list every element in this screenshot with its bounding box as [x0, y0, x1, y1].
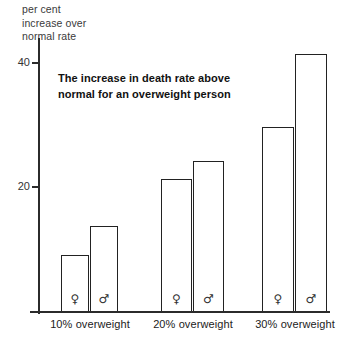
x-category-label-3: 30% overweight [240, 318, 338, 330]
mars-icon: ♂ [296, 293, 326, 305]
x-category-label-2: 20% overweight [138, 318, 248, 330]
x-category-label-1: 10% overweight [35, 318, 145, 330]
y-axis-caption-line-3: normal rate [22, 30, 86, 44]
y-axis-caption-line-1: per cent [22, 3, 86, 17]
bar-male-1: ♂ [90, 226, 118, 311]
bar-male-2: ♂ [193, 161, 224, 311]
y-tick-label: 40 [0, 56, 30, 68]
x-axis-line [30, 311, 330, 313]
y-axis-caption: per cent increase over normal rate [22, 3, 86, 44]
bar-male-3: ♂ [295, 54, 327, 311]
venus-icon: ♀ [62, 293, 88, 305]
bar-female-1: ♀ [61, 255, 89, 311]
bar-female-3: ♀ [262, 127, 294, 311]
bar-female-2: ♀ [161, 179, 192, 311]
y-axis-line [38, 38, 40, 314]
chart-title: The increase in death rate above normal … [58, 70, 231, 102]
y-tick-label: 20 [0, 180, 30, 192]
venus-icon: ♀ [263, 293, 293, 305]
mars-icon: ♂ [194, 293, 223, 305]
chart-title-line-2: normal for an overweight person [58, 86, 231, 102]
bar-chart: per cent increase over normal rate The i… [0, 0, 338, 345]
y-tick-mark [32, 62, 40, 64]
venus-icon: ♀ [162, 293, 191, 305]
y-axis-caption-line-2: increase over [22, 17, 86, 31]
y-tick-mark [32, 186, 40, 188]
mars-icon: ♂ [91, 293, 117, 305]
chart-title-line-1: The increase in death rate above [58, 70, 231, 86]
